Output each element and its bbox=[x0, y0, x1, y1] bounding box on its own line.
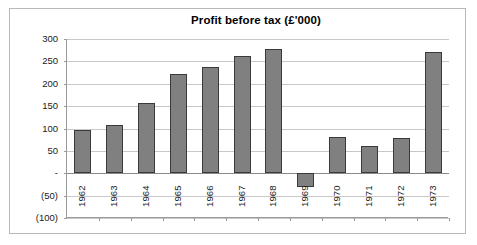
y-axis-tick-mark bbox=[64, 39, 67, 40]
gridline bbox=[67, 129, 449, 130]
y-axis-tick-label: 300 bbox=[10, 34, 58, 44]
chart-container: Profit before tax (£'000) 30025020015010… bbox=[0, 0, 477, 245]
y-axis-tick-label: 50 bbox=[10, 146, 58, 156]
x-axis-tick-mark bbox=[290, 218, 291, 221]
bar[interactable] bbox=[361, 146, 378, 174]
x-axis-tick-mark bbox=[322, 218, 323, 221]
bar[interactable] bbox=[234, 56, 251, 173]
x-axis-tick-mark bbox=[258, 218, 259, 221]
bar[interactable] bbox=[393, 138, 410, 173]
bar[interactable] bbox=[138, 103, 155, 174]
x-axis-tick-mark bbox=[163, 218, 164, 221]
x-axis-tick-mark bbox=[449, 218, 450, 221]
bar[interactable] bbox=[265, 49, 282, 173]
y-axis-tick-mark bbox=[64, 173, 67, 174]
bar[interactable] bbox=[202, 67, 219, 174]
y-axis-tick-mark bbox=[64, 61, 67, 62]
bar[interactable] bbox=[329, 137, 346, 173]
gridline bbox=[67, 106, 449, 107]
y-axis-tick-label: 200 bbox=[10, 79, 58, 89]
zero-line bbox=[67, 173, 449, 174]
y-axis-tick-mark bbox=[64, 84, 67, 85]
x-axis-tick-label: 1973 bbox=[428, 186, 438, 208]
x-axis-tick-label: 1969 bbox=[300, 186, 310, 208]
x-axis-tick-label: 1965 bbox=[173, 186, 183, 208]
y-axis-tick-label: 150 bbox=[10, 101, 58, 111]
x-axis-tick-mark bbox=[131, 218, 132, 221]
x-axis-tick-mark bbox=[385, 218, 386, 221]
y-axis-tick-label: (100) bbox=[10, 213, 58, 223]
x-axis-tick-mark bbox=[417, 218, 418, 221]
gridline bbox=[67, 39, 449, 40]
y-axis-tick-label: - bbox=[10, 168, 58, 178]
x-axis-tick-mark bbox=[226, 218, 227, 221]
x-axis-tick-label: 1970 bbox=[332, 186, 342, 208]
gridline bbox=[67, 61, 449, 62]
bar[interactable] bbox=[170, 74, 187, 173]
bar[interactable] bbox=[106, 125, 123, 173]
x-axis-tick-mark bbox=[99, 218, 100, 221]
plot-area bbox=[66, 39, 448, 218]
y-axis-tick-mark bbox=[64, 106, 67, 107]
gridline bbox=[67, 84, 449, 85]
x-axis-tick-label: 1964 bbox=[141, 186, 151, 208]
y-axis-tick-mark bbox=[64, 151, 67, 152]
y-axis-tick-label: 100 bbox=[10, 124, 58, 134]
y-axis-tick-mark bbox=[64, 129, 67, 130]
y-axis-tick-mark bbox=[64, 196, 67, 197]
x-axis-tick-label: 1963 bbox=[109, 186, 119, 208]
y-axis-tick-label: 250 bbox=[10, 56, 58, 66]
gridline bbox=[67, 196, 449, 197]
x-axis-tick-label: 1967 bbox=[237, 186, 247, 208]
x-axis-tick-mark bbox=[194, 218, 195, 221]
y-axis-tick-mark bbox=[64, 218, 67, 219]
gridline bbox=[67, 151, 449, 152]
x-axis-tick-label: 1968 bbox=[268, 186, 278, 208]
y-axis-tick-label: (50) bbox=[10, 191, 58, 201]
x-axis-tick-label: 1966 bbox=[205, 186, 215, 208]
x-axis-tick-label: 1962 bbox=[77, 186, 87, 208]
x-axis-tick-mark bbox=[354, 218, 355, 221]
bar[interactable] bbox=[74, 130, 91, 173]
bar[interactable] bbox=[425, 52, 442, 174]
x-axis-tick-label: 1971 bbox=[364, 186, 374, 208]
chart-title: Profit before tax (£'000) bbox=[66, 14, 446, 26]
x-axis-tick-label: 1972 bbox=[396, 186, 406, 208]
